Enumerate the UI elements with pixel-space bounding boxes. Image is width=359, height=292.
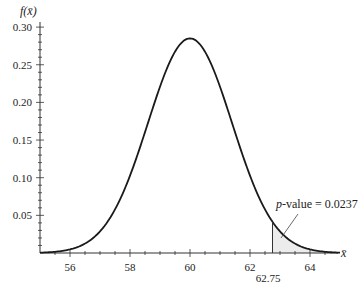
x-tick-label: 58 xyxy=(125,261,137,273)
p-value-label: p-value = 0.0237 xyxy=(275,197,358,211)
y-axis-label: f(x̄) xyxy=(20,4,37,18)
normal-distribution-chart: 56586062640.050.100.150.200.250.30 f(x̄)… xyxy=(0,0,359,292)
y-tick-label: 0.25 xyxy=(13,59,33,71)
y-tick-label: 0.10 xyxy=(13,172,33,184)
axis-labels: f(x̄) x̄ 62.75 p-value = 0.0237 xyxy=(20,4,358,284)
critical-value-label: 62.75 xyxy=(256,272,281,284)
x-tick-label: 64 xyxy=(305,261,317,273)
x-tick-label: 56 xyxy=(65,261,77,273)
density-curve xyxy=(40,38,340,252)
y-tick-label: 0.05 xyxy=(13,209,33,221)
x-tick-label: 62 xyxy=(245,261,256,273)
y-tick-label: 0.20 xyxy=(13,96,33,108)
y-tick-label: 0.30 xyxy=(13,21,33,33)
x-axis-label: x̄ xyxy=(340,246,347,260)
x-tick-label: 60 xyxy=(185,261,197,273)
y-tick-label: 0.15 xyxy=(13,134,33,146)
axes: 56586062640.050.100.150.200.250.30 xyxy=(13,21,338,273)
